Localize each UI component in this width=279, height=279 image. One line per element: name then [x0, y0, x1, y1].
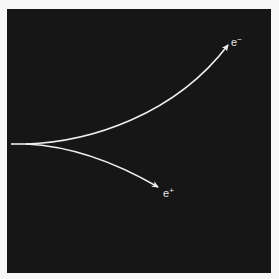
electron-track-arrow: [26, 45, 228, 144]
electron-label: e−: [231, 37, 242, 48]
positron-charge: +: [169, 186, 174, 195]
positron-label: e+: [163, 188, 174, 199]
electron-charge: −: [237, 35, 242, 44]
positron-track-arrow: [26, 144, 158, 187]
